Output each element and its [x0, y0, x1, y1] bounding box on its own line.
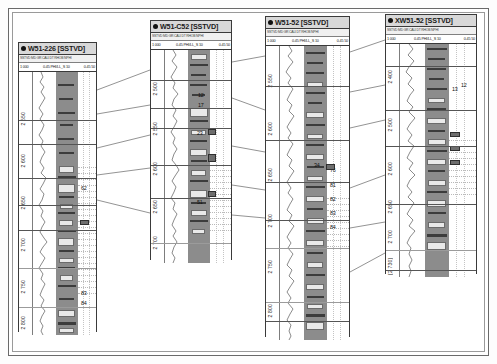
correlation-marker — [151, 243, 231, 244]
track-body-4[interactable]: 2 400 2 500 2 600 2 650 2 700 [2 730] — [386, 44, 476, 277]
lithology-column-2 — [188, 50, 210, 263]
track-header-micro-text-2: SSTVD MD GR CALI DT RHOB NPHI — [152, 34, 203, 38]
zone-number: 12 — [198, 92, 204, 98]
scale-mid-1: 0.45 PHI/LL_S 10 — [43, 65, 70, 69]
track-scale-row-4: 1 000 0.45 PHI/LL_S 10 0.45 50 — [386, 35, 476, 44]
zone-number: 82 — [330, 196, 336, 202]
depth-label: 2 650 — [152, 200, 158, 214]
zone-number: 23 — [197, 130, 203, 136]
depth-label: 2 600 — [267, 122, 273, 136]
correlation-marker — [19, 268, 96, 269]
depth-label: 2 750 — [20, 280, 26, 294]
zone-chip — [208, 129, 216, 135]
zone-number: 34 — [314, 162, 320, 168]
correlation-marker — [151, 198, 231, 199]
well-track-w51-52[interactable]: W51-52 [SSTVD] SSTVD MD GR CALI DT RHOB … — [265, 16, 350, 337]
scale-left-1: 1 000 — [20, 65, 29, 69]
gamma-ray-curve-1 — [32, 72, 56, 335]
track-header-micro-1: SSTVD MD GR CALI DT RHOB NPHI — [19, 55, 96, 63]
scale-right-3: 0.45 50 — [337, 39, 348, 43]
correlation-marker — [151, 128, 231, 129]
correlation-marker — [19, 144, 96, 145]
correlation-marker — [151, 165, 231, 166]
zone-chip — [450, 160, 460, 165]
depth-label: 2 750 — [267, 260, 273, 274]
depth-axis-1: 2 550 2 600 2 650 2 700 2 750 2 800 — [19, 72, 32, 335]
track-title-bar-1[interactable]: W51-226 [SSTVD] — [19, 43, 96, 55]
track-title-label-3: W51-52 [SSTVD] — [275, 18, 328, 27]
depth-label: 2 400 — [387, 70, 393, 84]
track-title-bar-3[interactable]: W51-52 [SSTVD] — [266, 17, 349, 29]
depth-label: 2 700 — [20, 238, 26, 252]
track-title-label-1: W51-226 [SSTVD] — [28, 44, 85, 53]
well-symbol-icon — [21, 46, 26, 51]
lithology-column-3 — [304, 46, 327, 340]
track-header-micro-2: SSTVD MD GR CALI DT RHOB NPHI — [151, 33, 231, 41]
correlation-marker — [19, 205, 96, 206]
track-title-bar-4[interactable]: XW51-52 [SSTVD] — [386, 15, 476, 27]
well-track-xw51-52[interactable]: XW51-52 [SSTVD] SSTVD MD GR CALI DT RHOB… — [385, 14, 477, 274]
zone-number: 84 — [330, 224, 336, 230]
correlation-marker — [386, 66, 476, 67]
correlation-marker — [266, 321, 349, 322]
zone-number: 83 — [81, 290, 87, 296]
zone-chip — [450, 132, 460, 137]
zone-number: 84 — [81, 300, 87, 306]
zone-chip — [326, 164, 335, 170]
correlation-marker — [266, 140, 349, 141]
gamma-ray-curve-2 — [164, 50, 188, 263]
zone-number: 13 — [452, 86, 458, 92]
depth-label: 2 550 — [20, 112, 26, 126]
correlation-marker — [386, 204, 476, 205]
track-header-micro-text-4: SSTVD MD GR CALI DT RHOB NPHI — [387, 28, 438, 32]
track-header-micro-3: SSTVD MD GR CALI DT RHOB NPHI — [266, 29, 349, 37]
correlation-marker — [19, 307, 96, 308]
correlation-marker — [19, 178, 96, 179]
well-symbol-icon — [153, 24, 158, 29]
depth-label: 2 500 — [387, 118, 393, 132]
track-body-1[interactable]: 2 550 2 600 2 650 2 700 2 750 2 800 — [19, 72, 96, 335]
depth-label: 2 600 — [387, 162, 393, 176]
correlation-marker — [19, 120, 96, 121]
gamma-ray-curve-4 — [399, 44, 425, 277]
scale-left-4: 1 000 — [387, 37, 396, 41]
correlation-marker — [266, 302, 349, 303]
well-track-w51-226[interactable]: W51-226 [SSTVD] SSTVD MD GR CALI DT RHOB… — [18, 42, 97, 332]
lithology-column-4 — [425, 44, 449, 277]
track-title-bar-2[interactable]: W51-C52 [SSTVD] — [151, 21, 231, 33]
correlation-marker — [266, 248, 349, 249]
scale-right-4: 0.45 50 — [464, 37, 475, 41]
depth-label: 2 500 — [152, 82, 158, 96]
lithology-column-1 — [56, 72, 78, 335]
correlation-marker — [266, 220, 349, 221]
depth-label: 2 600 — [20, 154, 26, 168]
depth-label: 2 800 — [20, 316, 26, 330]
track-title-label-2: W51-C52 [SSTVD] — [160, 22, 218, 31]
depth-label: 2 650 — [267, 168, 273, 182]
correlation-marker — [266, 86, 349, 87]
correlation-marker — [386, 270, 476, 271]
depth-label: [2 730] — [387, 258, 393, 275]
zone-grid-column-3 — [327, 46, 349, 340]
zone-number: 12 — [461, 82, 467, 88]
zone-number: 51 — [197, 199, 203, 205]
track-scale-row-1: 1 000 0.45 PHI/LL_S 10 0.45 50 — [19, 63, 96, 72]
correlation-marker — [386, 250, 476, 251]
track-body-2[interactable]: 2 500 2 550 2 600 2 650 2 700 — [151, 50, 231, 263]
track-scale-row-2: 1 000 0.45 PHI/LL_S 10 0.45 50 — [151, 41, 231, 50]
correlation-marker — [151, 108, 231, 109]
scale-left-2: 1 000 — [152, 43, 161, 47]
correlation-marker — [386, 146, 476, 147]
zone-chip — [80, 220, 89, 225]
correlation-panel-page: W51-226 [SSTVD] SSTVD MD GR CALI DT RHOB… — [0, 0, 497, 364]
depth-label: 2 650 — [20, 196, 26, 210]
zone-number: 62 — [81, 185, 87, 191]
track-header-micro-text-3: SSTVD MD GR CALI DT RHOB NPHI — [267, 30, 318, 34]
correlation-marker — [386, 110, 476, 111]
well-track-w51-c52[interactable]: W51-C52 [SSTVD] SSTVD MD GR CALI DT RHOB… — [150, 20, 232, 260]
scale-mid-4: 0.45 PHI/LL_S 10 — [414, 37, 441, 41]
depth-label: 2 800 — [267, 304, 273, 318]
zone-chip — [208, 191, 216, 197]
track-body-3[interactable]: 2 550 2 600 2 650 2 700 2 750 2 800 — [266, 46, 349, 340]
correlation-marker — [19, 230, 96, 231]
